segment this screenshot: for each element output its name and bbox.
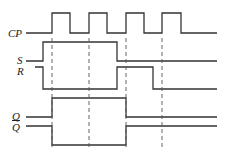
q-bar-waveform	[26, 126, 217, 145]
q-waveform	[26, 98, 217, 117]
clock-edge-markers	[52, 38, 162, 150]
cp-waveform	[26, 13, 217, 33]
timing-diagram	[0, 0, 227, 155]
s-waveform	[26, 42, 217, 61]
r-waveform	[35, 67, 217, 89]
